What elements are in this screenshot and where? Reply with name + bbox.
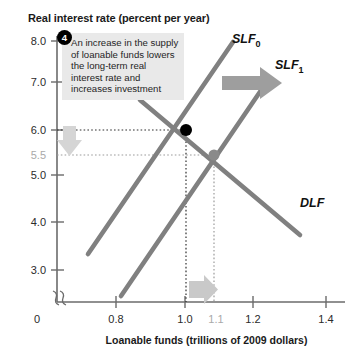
dlf-curve: [140, 100, 300, 235]
x-tick-1-4: 1.4: [318, 313, 333, 325]
slf1-label-text: SLF: [275, 58, 299, 72]
x-axis-title: Loanable funds (trillions of 2009 dollar…: [0, 334, 355, 346]
y-tick-6: 6.0: [20, 124, 46, 136]
x-tick-1-2: 1.2: [245, 313, 260, 325]
slf1-label-subscript: 1: [299, 65, 304, 75]
y-axis-title: Real interest rate (percent per year): [28, 12, 210, 24]
slf0-label-subscript: 0: [256, 39, 261, 49]
x-tick-0: 0: [34, 313, 40, 325]
x-tick-1-0: 1.0: [177, 313, 192, 325]
slf1-curve-label: SLF1: [275, 58, 304, 75]
y-tick-8: 8.0: [20, 35, 46, 47]
annotation-text: An increase in the supply of loanable fu…: [62, 33, 184, 100]
y-tick-5-5: 5.5: [20, 149, 46, 161]
slf0-label-text: SLF: [232, 32, 256, 46]
slf0-curve-label: SLF0: [232, 32, 261, 49]
new-equilibrium-point: [209, 150, 220, 161]
x-tick-0-8: 0.8: [108, 313, 123, 325]
x-tick-1-1: 1.1: [208, 313, 223, 325]
y-tick-5: 5.0: [20, 169, 46, 181]
chart-figure: Real interest rate (percent per year) 8.…: [0, 0, 355, 354]
initial-equilibrium-point: [180, 124, 192, 136]
annotation-badge-4: 4: [57, 30, 72, 45]
y-tick-3: 3.0: [20, 264, 46, 276]
dlf-curve-label: DLF: [300, 196, 324, 210]
y-tick-7: 7.0: [20, 76, 46, 88]
axis-break-marks: [53, 291, 66, 305]
y-tick-4: 4.0: [20, 216, 46, 228]
supply-shift-arrow: [222, 67, 282, 99]
